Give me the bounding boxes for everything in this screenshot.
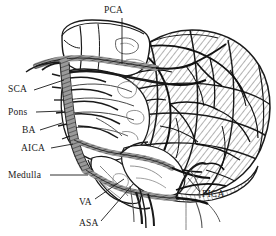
spinal-vessels [186, 200, 220, 230]
label-ba: BA [22, 126, 36, 136]
label-pons: Pons [8, 108, 27, 118]
label-asa: ASA [79, 219, 99, 229]
label-va: VA [79, 198, 92, 208]
midbrain [62, 20, 150, 77]
leader-line-sca [34, 80, 64, 90]
label-aica: AICA [21, 144, 45, 154]
leader-line-pons [36, 111, 63, 112]
label-pica: PICA [202, 190, 224, 200]
label-medulla: Medulla [8, 171, 41, 181]
label-sca: SCA [8, 85, 27, 95]
anatomical-figure: PCASCAPonsBAAICAMedullaVAASAPICA [0, 0, 276, 236]
anatomy-illustration [0, 0, 276, 236]
label-pca: PCA [104, 6, 123, 16]
leader-line-aica [51, 144, 73, 148]
